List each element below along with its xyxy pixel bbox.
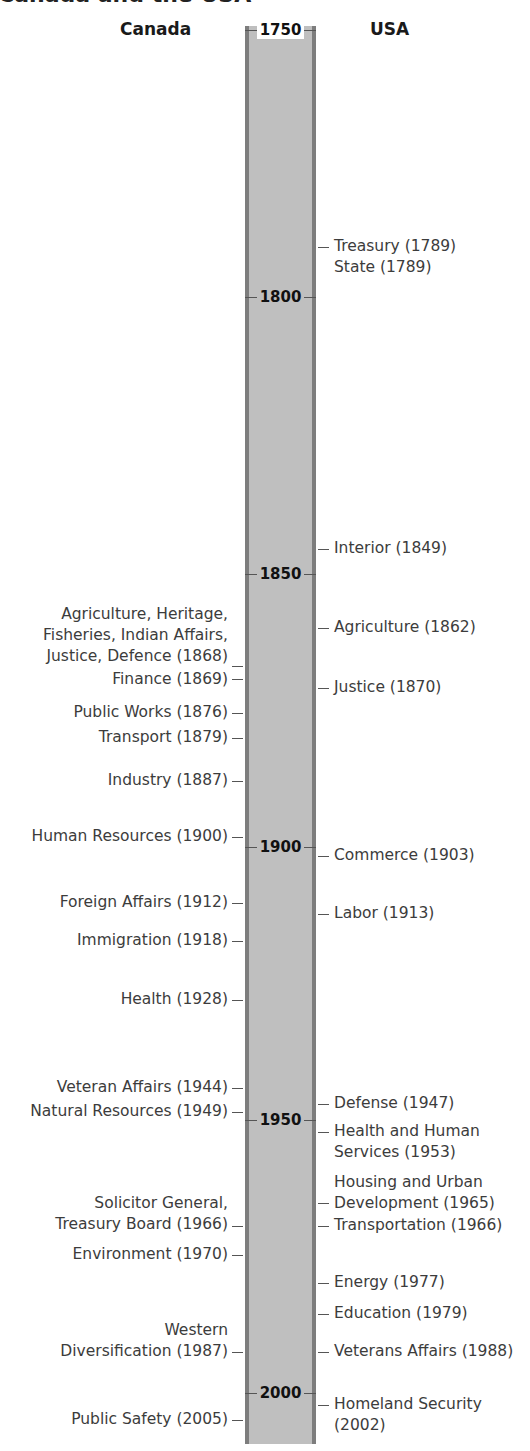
canada-event-tick <box>232 1420 243 1421</box>
usa-event-label: Housing and UrbanDevelopment (1965) <box>334 1172 495 1214</box>
event-line: Agriculture (1862) <box>334 617 476 638</box>
year-label-1750: 1750 <box>245 21 316 39</box>
event-line: Veterans Affairs (1988) <box>334 1341 513 1362</box>
usa-event-label: Health and HumanServices (1953) <box>334 1121 480 1163</box>
canada-event-label: Finance (1869) <box>112 669 228 690</box>
event-line: Justice (1870) <box>334 677 441 698</box>
year-label-2000: 2000 <box>245 1384 316 1402</box>
canada-event-label: Environment (1970) <box>73 1244 228 1265</box>
event-line: Agriculture, Heritage, <box>43 604 228 625</box>
canada-event-label: Agriculture, Heritage,Fisheries, Indian … <box>43 604 228 667</box>
year-text: 1850 <box>257 565 305 583</box>
canada-event-label: Transport (1879) <box>99 727 228 748</box>
canada-event-tick <box>232 713 243 714</box>
year-label-1900: 1900 <box>245 838 316 856</box>
event-line: Treasury (1789) <box>334 236 456 257</box>
column-header-canada: Canada <box>120 19 191 39</box>
event-line: Public Works (1876) <box>73 702 228 723</box>
canada-event-label: Public Works (1876) <box>73 702 228 723</box>
canada-event-label: Natural Resources (1949) <box>30 1101 228 1122</box>
canada-event-label: WesternDiversification (1987) <box>60 1320 228 1362</box>
usa-event-tick <box>318 856 329 857</box>
usa-event-label: Veterans Affairs (1988) <box>334 1341 513 1362</box>
usa-event-label: Labor (1913) <box>334 903 434 924</box>
event-line: Justice, Defence (1868) <box>43 646 228 667</box>
usa-event-label: Interior (1849) <box>334 538 447 559</box>
event-line: Immigration (1918) <box>77 930 228 951</box>
canada-event-tick <box>232 941 243 942</box>
canada-event-tick <box>232 1352 243 1353</box>
event-line: Public Safety (2005) <box>71 1409 228 1430</box>
canada-event-label: Veteran Affairs (1944) <box>57 1077 228 1098</box>
event-line: Finance (1869) <box>112 669 228 690</box>
usa-event-label: Education (1979) <box>334 1303 468 1324</box>
event-line: Housing and Urban <box>334 1172 495 1193</box>
event-line: Natural Resources (1949) <box>30 1101 228 1122</box>
event-line: Diversification (1987) <box>60 1341 228 1362</box>
usa-event-label: Treasury (1789)State (1789) <box>334 236 456 278</box>
event-line: Human Resources (1900) <box>32 826 228 847</box>
event-line: (2002) <box>334 1415 482 1436</box>
event-line: Development (1965) <box>334 1193 495 1214</box>
usa-event-tick <box>318 1132 329 1133</box>
year-label-1800: 1800 <box>245 288 316 306</box>
canada-event-tick <box>232 1112 243 1113</box>
event-line: Foreign Affairs (1912) <box>60 892 228 913</box>
usa-event-tick <box>318 1352 329 1353</box>
canada-event-tick <box>232 837 243 838</box>
event-line: Health and Human <box>334 1121 480 1142</box>
canada-event-tick <box>232 679 243 680</box>
usa-event-label: Homeland Security(2002) <box>334 1394 482 1436</box>
canada-event-tick <box>232 738 243 739</box>
usa-event-tick <box>318 914 329 915</box>
usa-event-label: Commerce (1903) <box>334 845 475 866</box>
event-line: Interior (1849) <box>334 538 447 559</box>
event-line: Services (1953) <box>334 1142 480 1163</box>
canada-event-label: Industry (1887) <box>108 770 228 791</box>
timeline-bar <box>245 26 316 1444</box>
year-label-1950: 1950 <box>245 1111 316 1129</box>
usa-event-label: Agriculture (1862) <box>334 617 476 638</box>
canada-event-label: Public Safety (2005) <box>71 1409 228 1430</box>
usa-event-tick <box>318 1314 329 1315</box>
event-line: Veteran Affairs (1944) <box>57 1077 228 1098</box>
event-line: Health (1928) <box>121 989 228 1010</box>
usa-event-label: Justice (1870) <box>334 677 441 698</box>
event-line: Labor (1913) <box>334 903 434 924</box>
event-line: Transport (1879) <box>99 727 228 748</box>
column-header-usa: USA <box>370 19 409 39</box>
usa-event-tick <box>318 1203 329 1204</box>
canada-event-tick <box>232 781 243 782</box>
canada-event-label: Human Resources (1900) <box>32 826 228 847</box>
usa-event-label: Defense (1947) <box>334 1093 454 1114</box>
canada-event-tick <box>232 1226 243 1227</box>
event-line: Fisheries, Indian Affairs, <box>43 625 228 646</box>
canada-event-tick <box>232 1255 243 1256</box>
chart-title: Canada and the USA <box>0 0 251 7</box>
canada-event-label: Health (1928) <box>121 989 228 1010</box>
usa-event-tick <box>318 1104 329 1105</box>
event-line: Industry (1887) <box>108 770 228 791</box>
event-line: State (1789) <box>334 257 456 278</box>
usa-event-tick <box>318 628 329 629</box>
event-line: Solicitor General, <box>55 1193 228 1214</box>
event-line: Western <box>60 1320 228 1341</box>
year-text: 1900 <box>257 838 305 856</box>
event-line: Education (1979) <box>334 1303 468 1324</box>
event-line: Environment (1970) <box>73 1244 228 1265</box>
event-line: Energy (1977) <box>334 1272 445 1293</box>
year-label-1850: 1850 <box>245 565 316 583</box>
usa-event-tick <box>318 1226 329 1227</box>
usa-event-label: Transportation (1966) <box>334 1215 502 1236</box>
year-text: 2000 <box>257 1384 305 1402</box>
event-line: Homeland Security <box>334 1394 482 1415</box>
usa-event-tick <box>318 1405 329 1406</box>
canada-event-label: Immigration (1918) <box>77 930 228 951</box>
usa-event-tick <box>318 1283 329 1284</box>
event-line: Defense (1947) <box>334 1093 454 1114</box>
event-line: Treasury Board (1966) <box>55 1214 228 1235</box>
canada-event-tick <box>232 666 243 667</box>
event-line: Commerce (1903) <box>334 845 475 866</box>
year-text: 1800 <box>257 288 305 306</box>
canada-event-label: Solicitor General,Treasury Board (1966) <box>55 1193 228 1235</box>
